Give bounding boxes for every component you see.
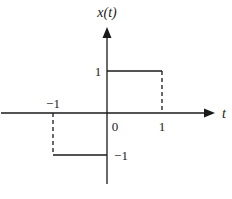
y-axis-arrowhead-icon xyxy=(103,27,112,38)
tick-label-origin: 0 xyxy=(112,119,119,134)
x-axis-label: t xyxy=(222,106,227,121)
tick-label-y-pos1: 1 xyxy=(95,64,102,79)
signal-plot: x(t) t −1 0 1 1 −1 xyxy=(0,0,232,199)
x-axis-arrowhead-icon xyxy=(204,109,215,118)
y-axis-label: x(t) xyxy=(96,5,117,21)
tick-label-x-neg1: −1 xyxy=(46,96,60,111)
tick-label-x-pos1: 1 xyxy=(159,119,166,134)
axes xyxy=(1,36,206,184)
tick-label-y-neg1: −1 xyxy=(114,148,128,163)
